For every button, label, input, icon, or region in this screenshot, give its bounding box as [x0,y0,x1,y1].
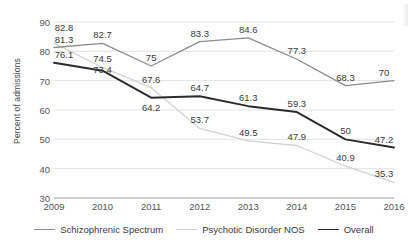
y-axis-tick-50: 50 [24,134,50,145]
y-axis-tick-90: 90 [24,17,50,28]
x-axis-tick-2010: 2010 [80,201,126,212]
legend-entry[interactable]: Schizophrenic Spectrum [34,224,163,235]
series-lines [54,22,394,198]
legend-label: Psychotic Disorder NOS [202,224,304,235]
y-axis-tick-80: 80 [24,46,50,57]
legend-label: Overall [344,224,374,235]
chart-legend: Schizophrenic SpectrumPsychotic Disorder… [0,224,408,235]
x-axis-tick-2015: 2015 [322,201,368,212]
y-axis-tick-40: 40 [24,163,50,174]
series-line-schizophrenic-spectrum [54,38,394,86]
y-axis-tick-60: 60 [24,105,50,116]
y-axis-title: Percent of admissions [12,26,22,176]
legend-swatch [318,229,339,230]
series-line-psychotic-disorder-nos [54,43,394,182]
edge-artifact [402,4,408,26]
y-axis-tick-70: 70 [24,75,50,86]
x-axis-tick-2012: 2012 [177,201,223,212]
legend-entry[interactable]: Overall [318,224,374,235]
x-axis-tick-2013: 2013 [225,201,271,212]
legend-swatch [176,229,197,230]
x-axis-tick-2016: 2016 [371,201,408,212]
x-axis-tick-2011: 2011 [128,201,174,212]
line-chart: Percent of admissions 30405060708090 200… [0,0,408,250]
x-axis-tick-2014: 2014 [274,201,320,212]
plot-area [54,22,394,198]
x-axis-tick-2009: 2009 [31,201,77,212]
legend-entry[interactable]: Psychotic Disorder NOS [176,224,304,235]
legend-swatch [34,229,55,230]
legend-label: Schizophrenic Spectrum [60,224,163,235]
